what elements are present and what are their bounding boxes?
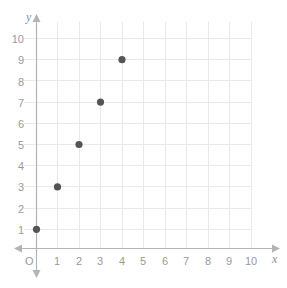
x-axis-left-arrow <box>14 245 22 253</box>
y-tick-label-10: 10 <box>2 33 24 45</box>
x-tick-label-9: 9 <box>219 255 239 267</box>
data-point <box>33 226 40 233</box>
data-point <box>118 56 125 63</box>
y-axis-up-arrow <box>33 14 41 22</box>
x-tick-label-4: 4 <box>112 255 132 267</box>
x-tick-label-8: 8 <box>198 255 218 267</box>
y-tick-label-1: 1 <box>2 224 24 236</box>
x-tick-label-7: 7 <box>176 255 196 267</box>
x-tick-label-10: 10 <box>241 255 261 267</box>
y-tick-label-9: 9 <box>2 54 24 66</box>
y-axis-down-arrow <box>33 270 41 278</box>
y-tick-label-7: 7 <box>2 97 24 109</box>
x-tick-label-1: 1 <box>47 255 67 267</box>
data-point <box>54 183 61 190</box>
y-tick-label-4: 4 <box>2 160 24 172</box>
y-tick-label-2: 2 <box>2 203 24 215</box>
x-tick-label-2: 2 <box>69 255 89 267</box>
data-point <box>75 141 82 148</box>
y-tick-label-3: 3 <box>2 181 24 193</box>
y-tick-label-6: 6 <box>2 118 24 130</box>
plot-canvas <box>0 0 287 288</box>
data-point <box>97 99 104 106</box>
x-tick-label-3: 3 <box>90 255 110 267</box>
x-tick-label-6: 6 <box>155 255 175 267</box>
horizontal-gridlines <box>24 39 251 230</box>
x-tick-label-5: 5 <box>133 255 153 267</box>
origin-label: O <box>25 255 34 267</box>
scatter-plot-figure: 10 9 8 7 6 5 4 3 2 1 1 2 3 4 5 6 7 8 9 1… <box>0 0 287 288</box>
y-axis-label: y <box>26 11 31 23</box>
y-tick-label-5: 5 <box>2 139 24 151</box>
y-tick-label-8: 8 <box>2 76 24 88</box>
x-axis-label: x <box>272 253 277 265</box>
vertical-gridlines <box>58 22 252 248</box>
